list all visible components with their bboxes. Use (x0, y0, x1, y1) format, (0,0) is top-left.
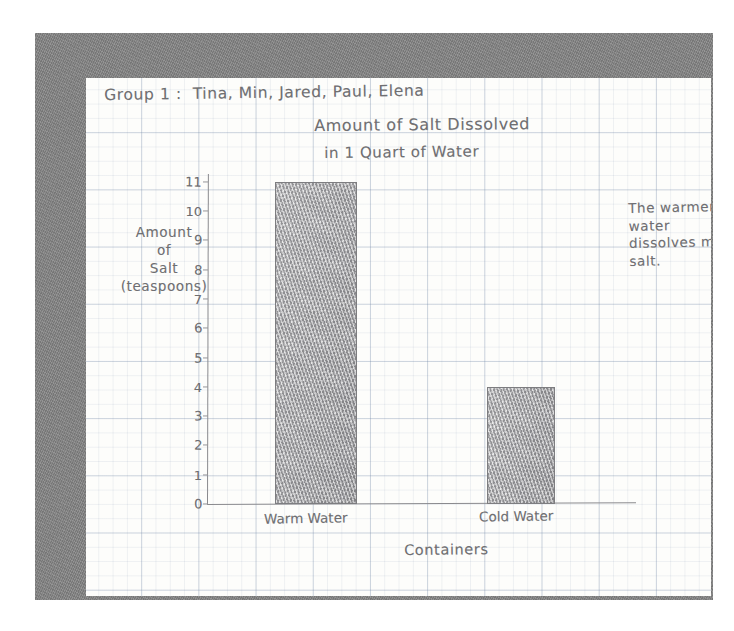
y-tick-mark (203, 503, 208, 504)
category-label-cold-water: Cold Water (479, 507, 553, 524)
graph-paper-sheet: Group 1 : Tina, Min, Jared, Paul, Elena … (86, 78, 711, 596)
y-tick-label: 1 (194, 468, 202, 481)
y-tick-mark (203, 445, 208, 446)
x-axis-line (207, 502, 636, 505)
y-tick-mark (203, 240, 208, 241)
y-tick-mark (203, 357, 208, 358)
y-tick-mark (203, 269, 208, 270)
y-tick-label: 6 (194, 322, 203, 335)
y-tick-label: 11 (185, 175, 202, 188)
photograph-canvas: Group 1 : Tina, Min, Jared, Paul, Elena … (0, 0, 734, 631)
bar-warm-water (275, 182, 357, 504)
y-tick-mark (203, 298, 208, 299)
plot-area: 01234567891011 Warm Water Cold Water (86, 78, 711, 596)
bar-cold-water (487, 387, 555, 504)
category-label-warm-water: Warm Water (264, 509, 348, 526)
y-tick-mark (203, 328, 208, 329)
y-tick-label: 2 (194, 439, 203, 452)
poster-frame-border: Group 1 : Tina, Min, Jared, Paul, Elena … (35, 33, 713, 600)
y-tick-mark (203, 210, 208, 211)
y-tick-mark (203, 474, 208, 475)
y-tick-label: 5 (194, 351, 203, 364)
y-axis-line (207, 174, 209, 505)
y-tick-label: 8 (194, 263, 203, 276)
y-tick-label: 4 (194, 380, 202, 393)
y-tick-label: 10 (185, 205, 202, 218)
y-tick-label: 0 (194, 497, 203, 510)
y-tick-label: 9 (194, 234, 203, 247)
y-tick-mark (203, 416, 208, 417)
y-tick-label: 7 (194, 292, 202, 305)
y-tick-mark (203, 181, 208, 182)
y-tick-mark (203, 386, 208, 387)
y-tick-label: 3 (194, 409, 203, 422)
